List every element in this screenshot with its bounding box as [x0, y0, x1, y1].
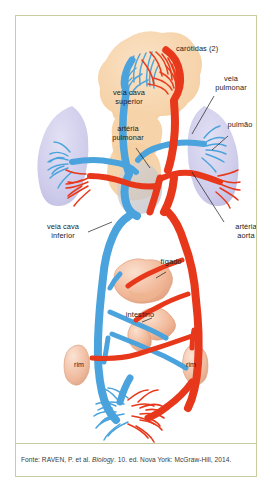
figure-frame: carótidas (2) veia cavasuperior veiapulm… — [15, 15, 257, 477]
caption-title: Biology — [92, 456, 114, 463]
figure-page: Estúdio Ornitorrinco — [0, 0, 270, 494]
label-rim-esquerdo: rim — [64, 361, 94, 370]
circulatory-diagram: carótidas (2) veia cavasuperior veiapulm… — [16, 16, 256, 444]
left-ventricle-outflow — [164, 178, 174, 212]
caption-area: Fonte: RAVEN, P. et al. Biology. 10. ed.… — [16, 443, 256, 476]
caption-suffix: . 10. ed. Nova York: McGraw-Hill, 2014. — [114, 456, 231, 463]
descending-aorta — [168, 212, 199, 408]
label-rim-direito: rim — [176, 361, 206, 370]
label-veia-cava-superior: veia cavasuperior — [98, 88, 160, 106]
label-veia-pulmonar: veiapulmonar — [200, 74, 256, 92]
label-intestino: intestino — [112, 310, 168, 319]
label-pulmao: pulmão — [212, 120, 256, 129]
label-veia-cava-inferior: veia cavainferior — [30, 222, 96, 240]
source-caption: Fonte: RAVEN, P. et al. Biology. 10. ed.… — [16, 456, 235, 464]
label-carotidas: carótidas (2) — [176, 44, 218, 53]
caption-prefix: Fonte: RAVEN, P. et al. — [21, 456, 92, 463]
label-arteria-aorta: artériaaorta — [218, 222, 256, 240]
label-arteria-pulmonar: artériapulmonar — [96, 124, 160, 142]
body-artery-supply — [148, 382, 192, 418]
renal-artery-right — [192, 330, 194, 348]
label-figado: fígado — [148, 257, 194, 266]
